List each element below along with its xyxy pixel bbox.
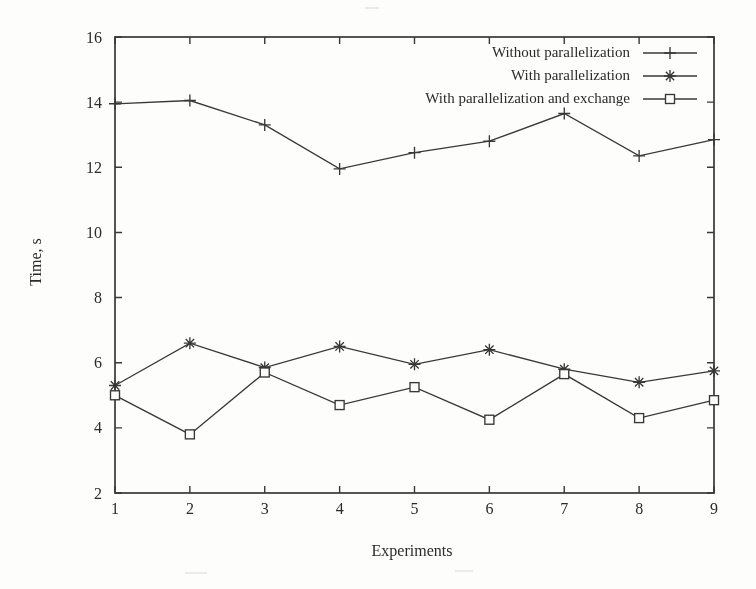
legend-label: Without parallelization bbox=[492, 44, 630, 61]
x-tick-label: 7 bbox=[560, 500, 568, 517]
plus-marker bbox=[409, 147, 421, 159]
square-marker bbox=[710, 396, 719, 405]
scan-smudge bbox=[455, 570, 473, 572]
asterisk-marker bbox=[664, 70, 676, 82]
scanned-chart-page: 123456789246810121416 Time, s Experiment… bbox=[0, 0, 756, 589]
x-tick-label: 2 bbox=[186, 500, 194, 517]
plus-legend-sample bbox=[642, 45, 698, 61]
square-marker bbox=[635, 414, 644, 423]
plus-marker bbox=[708, 134, 720, 146]
legend-entry-without-parallelization: Without parallelization bbox=[492, 41, 698, 64]
asterisk-legend-sample bbox=[642, 68, 698, 84]
square-marker bbox=[260, 368, 269, 377]
square-marker bbox=[335, 401, 344, 410]
square-legend-sample bbox=[642, 91, 698, 107]
asterisk-marker bbox=[409, 358, 421, 370]
plus-marker bbox=[259, 119, 271, 131]
y-tick-label: 14 bbox=[86, 94, 102, 111]
legend-label: With parallelization bbox=[511, 67, 630, 84]
line-chart: 123456789246810121416 Time, s Experiment… bbox=[0, 0, 756, 589]
series-with-parallelization-and-exchange bbox=[111, 368, 719, 439]
square-marker bbox=[111, 391, 120, 400]
legend-sample-glyph bbox=[643, 47, 697, 59]
y-tick-label: 16 bbox=[86, 29, 102, 46]
asterisk-marker bbox=[184, 337, 196, 349]
square-marker bbox=[185, 430, 194, 439]
square-marker bbox=[560, 370, 569, 379]
plus-marker bbox=[109, 98, 121, 110]
y-tick-label: 10 bbox=[86, 224, 102, 241]
y-tick-label: 8 bbox=[94, 289, 102, 306]
series-line bbox=[115, 101, 714, 169]
legend-sample-glyph bbox=[643, 94, 697, 103]
scan-smudge bbox=[365, 7, 379, 9]
plus-marker bbox=[633, 150, 645, 162]
y-axis-label: Time, s bbox=[27, 238, 45, 285]
asterisk-marker bbox=[483, 344, 495, 356]
plus-marker bbox=[483, 135, 495, 147]
plus-marker bbox=[184, 95, 196, 107]
scan-smudge bbox=[185, 572, 207, 574]
square-marker bbox=[666, 94, 675, 103]
asterisk-marker bbox=[633, 376, 645, 388]
y-tick-label: 2 bbox=[94, 485, 102, 502]
x-axis-label: Experiments bbox=[372, 542, 453, 560]
x-tick-label: 5 bbox=[411, 500, 419, 517]
legend-sample-glyph bbox=[643, 70, 697, 82]
legend-entry-with-parallelization: With parallelization bbox=[511, 64, 698, 87]
plus-marker bbox=[664, 47, 676, 59]
plus-marker bbox=[334, 163, 346, 175]
y-tick-label: 4 bbox=[94, 419, 102, 436]
x-tick-label: 4 bbox=[336, 500, 344, 517]
x-tick-label: 6 bbox=[485, 500, 493, 517]
legend-label: With parallelization and exchange bbox=[425, 90, 630, 107]
x-tick-label: 8 bbox=[635, 500, 643, 517]
x-tick-label: 3 bbox=[261, 500, 269, 517]
asterisk-marker bbox=[708, 365, 720, 377]
x-tick-label: 1 bbox=[111, 500, 119, 517]
square-marker bbox=[410, 383, 419, 392]
chart-legend: Without parallelizationWith parallelizat… bbox=[425, 41, 698, 110]
y-tick-label: 6 bbox=[94, 354, 102, 371]
series-line bbox=[115, 373, 714, 435]
x-tick-label: 9 bbox=[710, 500, 718, 517]
y-tick-label: 12 bbox=[86, 159, 102, 176]
asterisk-marker bbox=[109, 380, 121, 392]
legend-entry-with-parallelization-and-exchange: With parallelization and exchange bbox=[425, 87, 698, 110]
asterisk-marker bbox=[334, 340, 346, 352]
square-marker bbox=[485, 415, 494, 424]
